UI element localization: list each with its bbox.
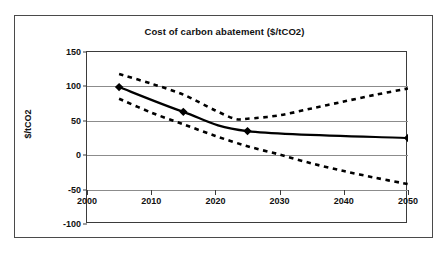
data-point-marker-2005: [115, 83, 123, 91]
y-tick-label--100: -100: [63, 219, 81, 229]
y-axis-title: $/tCO2: [23, 94, 33, 154]
y-tick-label-150: 150: [66, 47, 81, 57]
series-line-central-estimate: [119, 87, 408, 138]
series-line-lower-bound: [119, 99, 408, 184]
chart-screenshot: Cost of carbon abatement ($/tCO2) $/tCO2…: [0, 0, 447, 254]
data-point-marker-2050: [404, 134, 408, 142]
plot-area: 150100500-50-100200020102020203020402050: [86, 51, 407, 223]
y-tick-label-100: 100: [66, 81, 81, 91]
data-point-marker-2025: [243, 127, 251, 135]
x-tick-mark-2050: [408, 190, 409, 195]
chart-frame: Cost of carbon abatement ($/tCO2) $/tCO2…: [14, 15, 433, 238]
data-point-marker-2015: [179, 108, 187, 116]
series-line-upper-bound: [119, 74, 408, 119]
series-layer: [87, 52, 408, 224]
chart-title: Cost of carbon abatement ($/tCO2): [15, 26, 434, 37]
y-tick-label--50: -50: [68, 185, 81, 195]
y-tick-label-0: 0: [76, 150, 81, 160]
y-tick-label-50: 50: [71, 116, 81, 126]
